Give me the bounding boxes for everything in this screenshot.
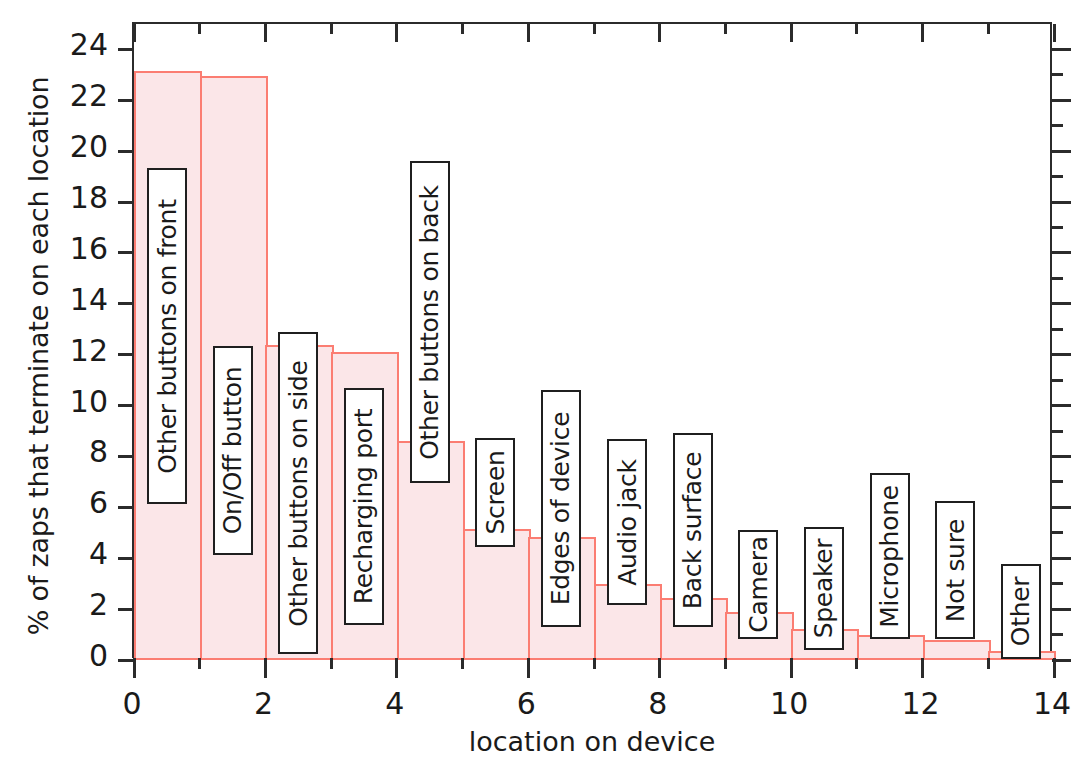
y-axis-tick-label: 18 <box>70 180 108 215</box>
x-axis-tick-label: 0 <box>122 686 141 721</box>
y-axis-tick <box>118 48 134 51</box>
right-axis-tick <box>1052 150 1071 153</box>
x-axis-tick <box>264 658 267 678</box>
x-axis-tick-label: 14 <box>1033 686 1071 721</box>
bar-label: Other buttons on back <box>410 161 450 483</box>
y-axis-tick <box>118 455 134 458</box>
bar-label-text: Back surface <box>680 451 705 608</box>
bar-label: Edges of device <box>541 390 581 627</box>
top-axis-tick <box>855 24 858 34</box>
bar-label: Back surface <box>673 433 713 627</box>
top-axis-tick <box>658 24 661 42</box>
right-axis-tick <box>1052 353 1071 356</box>
top-axis-tick <box>395 24 398 42</box>
right-axis-tick <box>1052 404 1071 407</box>
right-axis-tick <box>1052 99 1071 102</box>
right-axis-tick <box>1052 557 1071 560</box>
x-axis-tick-label: 6 <box>517 686 536 721</box>
bar-label-text: Other <box>1009 577 1034 646</box>
x-axis-tick <box>133 658 136 678</box>
right-axis-tick <box>1052 175 1063 178</box>
y-axis-tick <box>118 150 134 153</box>
bar-label: Speaker <box>804 527 844 650</box>
bar-label: Microphone <box>870 473 910 639</box>
bar-chart-figure: % of zaps that terminate on each locatio… <box>0 0 1071 766</box>
bar <box>463 529 531 660</box>
bar-label: On/Off button <box>213 346 253 555</box>
bar-label: Camera <box>738 530 778 639</box>
bar-label: Screen <box>475 438 515 547</box>
y-axis-tick <box>118 557 134 560</box>
right-axis-tick <box>1052 73 1063 76</box>
y-axis-tick <box>118 201 134 204</box>
x-axis-tick <box>790 658 793 678</box>
top-axis-tick <box>330 24 333 34</box>
top-axis-tick <box>461 24 464 34</box>
top-axis-tick <box>527 24 530 42</box>
x-axis-tick <box>921 658 924 678</box>
right-axis-tick <box>1052 633 1063 636</box>
y-axis-tick-label: 4 <box>89 536 108 571</box>
y-axis-tick-label: 0 <box>89 638 108 673</box>
top-axis-tick <box>1053 24 1056 42</box>
x-axis-tick <box>658 658 661 678</box>
bar-label-text: Other buttons on front <box>154 199 179 473</box>
bar-label-text: Recharging port <box>352 409 377 605</box>
bar-label-text: On/Off button <box>220 367 245 535</box>
y-axis-tick-label: 8 <box>89 434 108 469</box>
bar-label-text: Speaker <box>812 539 837 639</box>
x-axis-tick <box>1053 658 1056 678</box>
y-axis-tick-label: 22 <box>70 78 108 113</box>
right-axis-tick <box>1052 48 1071 51</box>
top-axis-tick <box>987 24 990 34</box>
y-axis-tick <box>118 251 134 254</box>
bar-label: Recharging port <box>344 388 384 625</box>
bar-label: Other buttons on side <box>278 332 318 654</box>
right-axis-tick <box>1052 531 1063 534</box>
x-axis-tick <box>395 658 398 678</box>
x-axis-tick <box>593 658 596 669</box>
top-axis-tick <box>133 24 136 42</box>
top-axis-tick <box>724 24 727 34</box>
bar-label-text: Camera <box>746 536 771 632</box>
top-axis-tick <box>264 24 267 42</box>
y-axis-tick <box>118 506 134 509</box>
y-axis-label: % of zaps that terminate on each locatio… <box>18 26 58 686</box>
x-axis-tick-label: 2 <box>254 686 273 721</box>
right-axis-tick <box>1052 480 1063 483</box>
y-axis-tick <box>118 608 134 611</box>
right-axis-tick <box>1052 328 1063 331</box>
x-axis-label: location on device <box>132 726 1052 757</box>
right-axis-tick <box>1052 201 1071 204</box>
y-axis-tick-label: 6 <box>89 485 108 520</box>
right-axis-tick <box>1052 379 1063 382</box>
top-axis-tick <box>198 24 201 34</box>
y-axis-tick-label: 20 <box>70 129 108 164</box>
x-axis-tick-label: 10 <box>770 686 808 721</box>
y-axis-tick <box>118 99 134 102</box>
right-axis-tick <box>1052 251 1071 254</box>
x-axis-tick <box>198 658 201 669</box>
top-axis-tick <box>921 24 924 42</box>
y-axis-tick-label: 12 <box>70 333 108 368</box>
top-axis-tick <box>790 24 793 42</box>
y-axis-tick-label: 14 <box>70 282 108 317</box>
x-axis-tick <box>527 658 530 678</box>
bar-label-text: Other buttons on side <box>286 360 311 626</box>
bar-label-text: Not sure <box>943 518 968 621</box>
right-axis-tick <box>1052 430 1063 433</box>
bar-label: Other buttons on front <box>147 168 187 504</box>
y-axis-tick-label: 2 <box>89 587 108 622</box>
x-axis-tick <box>855 658 858 669</box>
y-axis-tick-label: 24 <box>70 27 108 62</box>
y-axis-tick <box>118 353 134 356</box>
bar-label-text: Edges of device <box>549 412 574 606</box>
right-axis-tick <box>1052 226 1063 229</box>
y-axis-tick-label: 16 <box>70 231 108 266</box>
x-axis-tick <box>987 658 990 669</box>
x-axis-tick <box>330 658 333 669</box>
right-axis-tick <box>1052 608 1071 611</box>
right-axis-tick <box>1052 302 1071 305</box>
right-axis-tick <box>1052 506 1071 509</box>
bar-label-text: Other buttons on back <box>417 185 442 460</box>
